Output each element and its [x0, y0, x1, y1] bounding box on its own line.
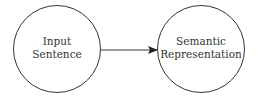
- node-semantic-representation: Semantic Representation: [158, 6, 245, 93]
- node-label-line: Sentence: [32, 48, 81, 60]
- node-label-line: Representation: [160, 48, 242, 60]
- node-label-line: Input: [43, 35, 72, 47]
- node-label-line: Semantic: [176, 35, 226, 47]
- node-input-sentence: Input Sentence: [14, 6, 101, 93]
- diagram-canvas: Input Sentence Semantic Representation: [0, 0, 264, 105]
